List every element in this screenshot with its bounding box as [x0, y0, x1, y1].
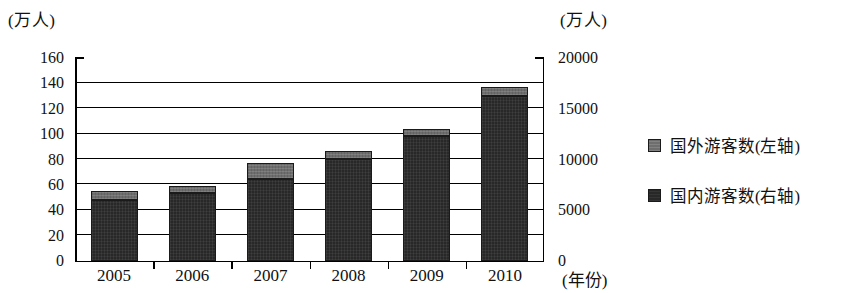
gridline	[75, 158, 544, 159]
bar-2007	[247, 163, 294, 260]
legend-swatch-foreign-icon	[648, 139, 661, 152]
bar-2005	[91, 191, 138, 260]
left-axis-tick-label: 80	[48, 152, 64, 168]
bar-segment-domestic	[325, 159, 372, 261]
bar-segment-foreign	[247, 163, 294, 179]
bar-segment-foreign	[91, 191, 138, 200]
x-axis-tick	[231, 262, 233, 269]
bar-segment-domestic	[481, 96, 528, 261]
left-axis-tick-label: 20	[48, 228, 64, 244]
x-axis-tick	[466, 262, 468, 269]
bar-2009	[403, 129, 450, 261]
left-axis-tick-label: 40	[48, 202, 64, 218]
right-axis-tick-labels: 05000100001500020000	[552, 57, 622, 262]
bar-2010	[481, 87, 528, 261]
legend-label-foreign: 国外游客数(左轴)	[670, 133, 800, 157]
x-axis-label-2006: 2006	[162, 266, 222, 286]
gridline	[75, 183, 544, 184]
left-axis-tick-label: 0	[56, 253, 64, 269]
left-axis-line	[75, 57, 77, 262]
bar-2008	[325, 151, 372, 260]
left-axis-tick-labels: 160140120100806040200	[8, 57, 68, 262]
gridline	[75, 82, 544, 83]
bar-segment-foreign	[169, 186, 216, 192]
legend-label-domestic: 国内游客数(右轴)	[670, 183, 800, 207]
left-axis-tick-label: 60	[48, 177, 64, 193]
x-axis-title: (年份)	[562, 266, 607, 291]
left-axis-unit-title: (万人)	[8, 6, 55, 31]
bar-segment-domestic	[247, 179, 294, 260]
x-axis-tick	[153, 262, 155, 269]
x-axis-label-2007: 2007	[240, 266, 300, 286]
bar-segment-domestic	[91, 200, 138, 260]
x-axis-label-2010: 2010	[475, 266, 535, 286]
right-axis-tick-label: 5000	[558, 202, 590, 218]
left-axis-tick-label: 100	[40, 126, 64, 142]
x-axis-tick	[310, 262, 312, 269]
left-axis-tick-label: 160	[40, 50, 64, 66]
right-axis-tick-label: 10000	[558, 152, 598, 168]
x-axis-tick	[388, 262, 390, 269]
gridline	[75, 133, 544, 134]
plot-area	[75, 57, 544, 262]
bar-chart: (万人) (万人) 160140120100806040200 05000100…	[0, 0, 843, 293]
bar-segment-domestic	[169, 193, 216, 261]
bar-segment-foreign	[481, 87, 528, 96]
left-axis-tick-label: 120	[40, 101, 64, 117]
plot-background	[75, 57, 544, 262]
gridline	[75, 234, 544, 235]
x-axis-label-2009: 2009	[397, 266, 457, 286]
right-axis-tick-label: 15000	[558, 101, 598, 117]
right-axis-tick-label: 20000	[558, 50, 598, 66]
bar-segment-foreign	[325, 151, 372, 159]
legend-item-foreign: 国外游客数(左轴)	[648, 133, 800, 157]
x-axis-label-2008: 2008	[319, 266, 379, 286]
left-axis-top-cap	[75, 57, 84, 59]
gridline	[75, 107, 544, 108]
legend-swatch-domestic-icon	[648, 189, 661, 202]
gridline	[75, 209, 544, 210]
left-axis-tick-label: 140	[40, 75, 64, 91]
right-axis-line	[543, 57, 545, 262]
bar-segment-domestic	[403, 136, 450, 260]
chart-legend: 国外游客数(左轴) 国内游客数(右轴)	[648, 133, 800, 233]
right-axis-top-cap	[535, 57, 544, 59]
x-axis-line	[75, 261, 544, 263]
bar-segment-foreign	[403, 129, 450, 137]
x-axis-label-2005: 2005	[84, 266, 144, 286]
bar-2006	[169, 186, 216, 260]
right-axis-unit-title: (万人)	[560, 6, 607, 31]
legend-item-domestic: 国内游客数(右轴)	[648, 183, 800, 207]
